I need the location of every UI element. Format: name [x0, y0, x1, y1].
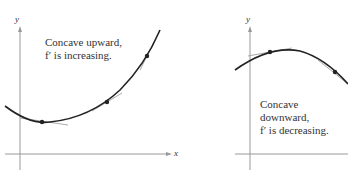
left-y-label: y — [15, 14, 19, 24]
right-caption: Concave downward, f′ is decreasing. — [260, 98, 348, 137]
right-y-label: y — [246, 14, 250, 24]
right-tangent-lines — [248, 48, 348, 84]
left-x-label: x — [174, 148, 178, 158]
left-caption: Concave upward, f′ is increasing. — [45, 36, 122, 62]
right-tangent-points — [268, 50, 337, 74]
left-tangent-points — [40, 54, 149, 124]
